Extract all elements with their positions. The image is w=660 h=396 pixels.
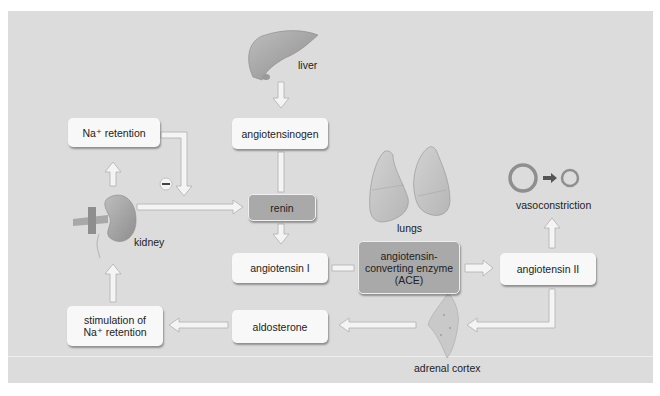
liver-label: liver	[298, 59, 317, 71]
aldosterone-label: aldosterone	[253, 321, 308, 333]
stimulation-label-line2: Na⁺ retention	[83, 326, 146, 338]
vessel-constriction-icon	[510, 165, 578, 191]
renin-label: renin	[270, 202, 293, 214]
arrow-angiotensin2-adrenal	[467, 289, 555, 332]
angiotensinogen-label: angiotensinogen	[241, 128, 318, 140]
stimulation-box: stimulation of Na⁺ retention	[67, 306, 163, 346]
arrow-ace-angiotensin2	[465, 260, 493, 276]
arrow-aldosterone-stimulation	[169, 318, 228, 332]
arrow-angiotensin2-vasoconstriction	[544, 218, 560, 248]
ace-label-line1: angiotensin-	[380, 250, 437, 262]
arrow-stimulation-kidney	[105, 264, 121, 302]
angiotensin-2-box: angiotensin II	[500, 253, 596, 285]
arrow-liver-angiotensinogen	[273, 82, 289, 108]
ace-label-line2: converting enzyme	[365, 262, 453, 274]
adrenal-cortex-label: adrenal cortex	[414, 362, 481, 374]
aldosterone-box: aldosterone	[232, 310, 328, 343]
arrow-kidney-na-retention	[105, 162, 121, 186]
kidney-label: kidney	[134, 236, 164, 248]
arrow-renin-angiotensin1	[273, 224, 289, 244]
angiotensin-2-label: angiotensin II	[517, 263, 579, 275]
lungs-icon	[370, 147, 450, 222]
lungs-label: lungs	[397, 222, 422, 234]
angiotensin-1-box: angiotensin I	[232, 253, 328, 283]
adrenal-cortex-icon	[428, 293, 458, 358]
ace-box: angiotensin- converting enzyme (ACE)	[358, 241, 460, 294]
arrow-kidney-renin	[137, 200, 243, 214]
vasoconstriction-label: vasoconstriction	[516, 199, 591, 211]
renin-box: renin	[248, 194, 316, 221]
inhibition-icon	[160, 178, 172, 190]
angiotensinogen-box: angiotensinogen	[232, 118, 328, 149]
na-retention-box: Na⁺ retention	[68, 118, 160, 147]
angiotensin-1-label: angiotensin I	[250, 262, 310, 274]
arrow-angiotensinogen-renin	[278, 152, 284, 192]
na-retention-label: Na⁺ retention	[82, 127, 145, 139]
stimulation-label-line1: stimulation of	[84, 314, 146, 326]
liver-icon	[249, 31, 318, 80]
kidney-icon	[73, 195, 136, 258]
ace-label-line3: (ACE)	[395, 274, 424, 286]
arrow-adrenal-aldosterone	[339, 318, 416, 332]
arrow-angiotensin1-ace	[332, 265, 354, 271]
